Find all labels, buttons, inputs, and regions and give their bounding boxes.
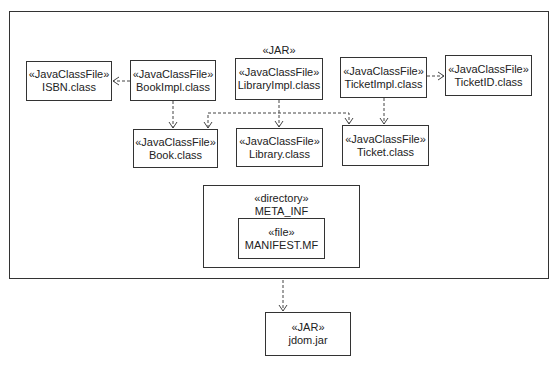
dependency-connectors [0, 0, 557, 365]
